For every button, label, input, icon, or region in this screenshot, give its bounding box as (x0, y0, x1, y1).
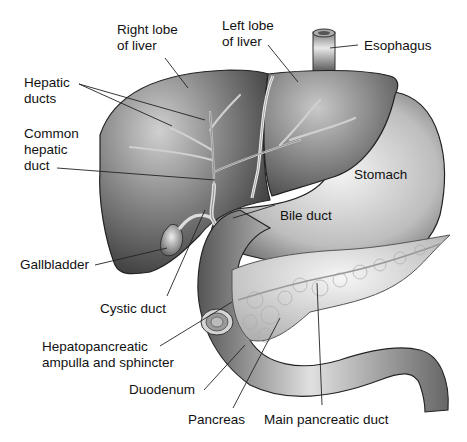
hepatopancreatic-ampulla (201, 309, 233, 335)
label-stomach: Stomach (354, 167, 407, 183)
label-gallbladder: Gallbladder (20, 257, 89, 273)
label-esophagus: Esophagus (364, 38, 432, 54)
label-pancreas: Pancreas (188, 412, 245, 428)
anatomy-diagram: Right lobe of liver Left lobe of liver E… (0, 0, 467, 442)
label-cystic-duct: Cystic duct (100, 301, 166, 317)
label-common-hepatic-duct: Common hepatic duct (24, 126, 79, 174)
label-right-lobe-of-liver: Right lobe of liver (117, 22, 178, 54)
label-hepatic-ducts: Hepatic ducts (24, 75, 70, 107)
label-bile-duct: Bile duct (280, 208, 332, 224)
organ-illustration (0, 0, 467, 442)
label-main-pancreatic-duct: Main pancreatic duct (264, 412, 389, 428)
esophagus (313, 29, 335, 72)
label-left-lobe-of-liver: Left lobe of liver (222, 18, 274, 50)
label-duodenum: Duodenum (129, 382, 195, 398)
label-hepatopancreatic-ampulla: Hepatopancreatic ampulla and sphincter (42, 339, 174, 371)
